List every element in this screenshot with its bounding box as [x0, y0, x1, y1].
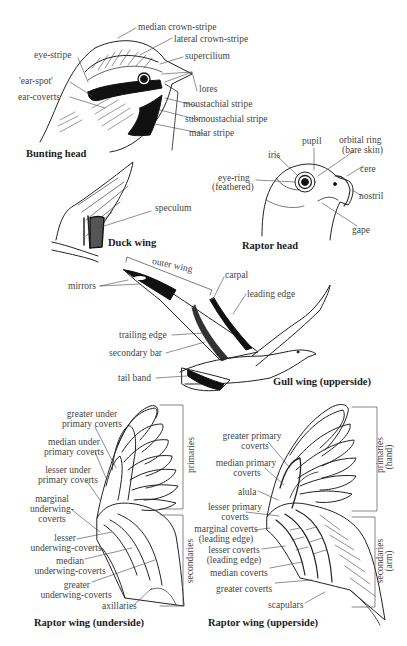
label-secondary-bar: secondary bar [109, 348, 162, 358]
label-marginal-coverts: marginal coverts [190, 524, 262, 534]
label-median-coverts: median coverts [210, 568, 268, 578]
label-eye-stripe: eye-stripe [34, 50, 71, 60]
label-lesser-primary-coverts-2: coverts [210, 512, 260, 522]
label-iris: iris [268, 150, 280, 160]
label-lesser-coverts: lesser coverts [202, 545, 266, 555]
label-eye-ring-note: (feathered) [212, 182, 254, 192]
caption-raptor-head: Raptor head [242, 240, 298, 251]
label-marginal-underwing-coverts: marginal [22, 494, 82, 504]
label-supercilium: supercilium [185, 51, 230, 61]
label-tail-band: tail band [118, 373, 151, 383]
label-marginal-underwing-coverts-3: coverts [22, 514, 82, 524]
label-orbital-ring: orbital ring [339, 135, 381, 145]
label-nostril: nostril [359, 191, 383, 201]
label-greater-underwing-coverts: greater [34, 580, 90, 590]
label-median-under-primary-coverts-2: primary coverts [34, 447, 114, 457]
caption-bunting-head: Bunting head [26, 148, 86, 159]
label-greater-underwing-coverts-2: underwing-coverts [36, 590, 116, 600]
label-lesser-primary-coverts: lesser primary [200, 502, 270, 512]
label-secondaries-arm: (arm) [384, 536, 394, 586]
label-carpal: carpal [225, 270, 248, 280]
label-lesser-underwing-coverts: lesser [20, 533, 76, 543]
label-median-crown-stripe: median crown-stripe [138, 22, 216, 32]
label-alula: alula [238, 487, 256, 497]
label-median-underwing-coverts-2: underwing-coverts [30, 566, 110, 576]
label-marginal-coverts-2: (leading edge) [194, 534, 258, 544]
label-greater-primary-coverts: greater primary [214, 431, 290, 441]
label-leading-edge: leading edge [247, 289, 295, 299]
label-lesser-under-primary-coverts-2: primary coverts [28, 475, 108, 485]
label-malar-stripe: malar stripe [189, 128, 234, 138]
label-trailing-edge: trailing edge [119, 330, 167, 340]
label-lores: lores [199, 84, 217, 94]
label-ear-spot: 'ear-spot' [19, 76, 53, 86]
label-moustachial-stripe: moustachial stripe [183, 99, 252, 109]
label-gape: gape [352, 225, 370, 235]
label-ear-coverts: ear-coverts [18, 92, 60, 102]
label-median-primary-coverts-2: coverts [222, 468, 272, 478]
caption-raptor-wing-upperside: Raptor wing (upperside) [208, 617, 318, 628]
label-marginal-underwing-coverts-2: underwing- [22, 504, 82, 514]
caption-duck-wing: Duck wing [108, 237, 156, 248]
label-submoustachial-stripe: submoustachial stripe [185, 114, 268, 124]
caption-raptor-wing-underside: Raptor wing (underside) [34, 617, 144, 628]
raptor-head-drawing [262, 164, 353, 240]
label-primaries-hand: (hand) [384, 432, 394, 482]
label-primaries-underside: primaries [186, 430, 196, 480]
label-axillaries: axillaries [102, 601, 137, 611]
label-lateral-crown-stripe: lateral crown-stripe [174, 34, 248, 44]
label-cere: cere [360, 164, 376, 174]
label-lesser-underwing-coverts-2: underwing-coverts [26, 543, 106, 553]
label-greater-under-primary-coverts-2: primary coverts [52, 419, 132, 429]
label-median-underwing-coverts: median [26, 556, 84, 566]
label-lesser-coverts-2: (leading edge) [202, 555, 266, 565]
caption-gull-wing: Gull wing (upperside) [273, 376, 371, 387]
label-speculum: speculum [155, 203, 191, 213]
label-lesser-under-primary-coverts: lesser under [28, 465, 108, 475]
label-scapulars: scapulars [268, 600, 303, 610]
label-greater-under-primary-coverts: greater under [52, 409, 132, 419]
label-greater-primary-coverts-2: coverts [230, 441, 280, 451]
label-orbital-ring-note: (bare skin) [342, 145, 383, 155]
label-mirrors: mirrors [68, 281, 96, 291]
label-greater-coverts: greater coverts [216, 584, 272, 594]
label-median-primary-coverts: median primary [208, 458, 284, 468]
label-pupil: pupil [302, 136, 322, 146]
label-median-under-primary-coverts: median under [34, 437, 114, 447]
